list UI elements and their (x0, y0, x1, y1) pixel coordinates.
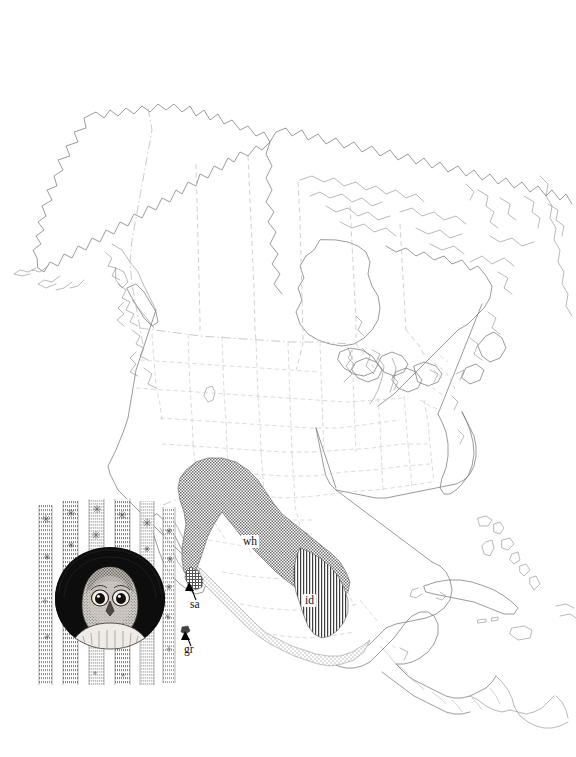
figure-page: wh id sa gr (0, 0, 576, 757)
owl-eye-left (92, 590, 109, 606)
owl-eye-right (113, 590, 130, 606)
elf-owl-illustration (33, 497, 188, 690)
